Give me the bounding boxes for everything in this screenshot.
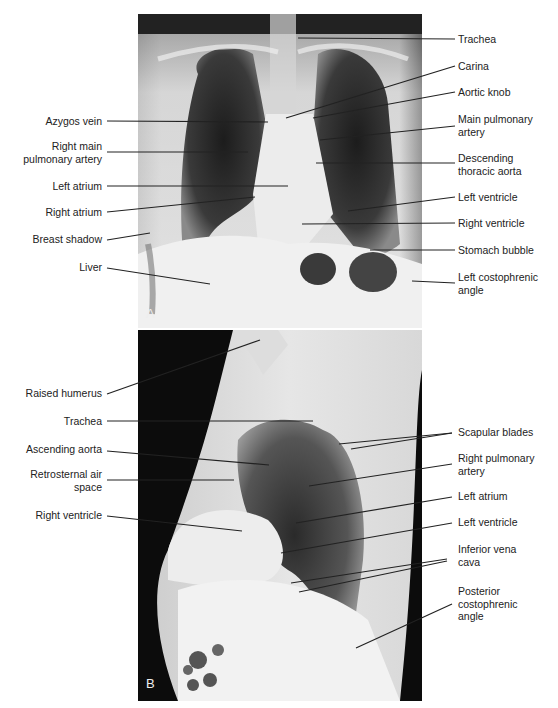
label-left-ventricle-a: Left ventricle	[458, 191, 518, 204]
label-right-ventricle-b: Right ventricle	[35, 509, 102, 522]
xray-panel-a-frontal: A	[138, 14, 422, 328]
panel-label-a: A	[146, 306, 155, 321]
label-right-main-pulmonary-artery: Right main pulmonary artery	[23, 140, 102, 165]
label-left-atrium-a: Left atrium	[52, 180, 102, 193]
label-descending-thoracic-aorta: Descending thoracic aorta	[458, 152, 522, 177]
label-ascending-aorta: Ascending aorta	[26, 443, 102, 456]
label-azygos-vein: Azygos vein	[45, 115, 102, 128]
label-right-pulmonary-artery: Right pulmonary artery	[458, 452, 534, 477]
label-aortic-knob: Aortic knob	[458, 86, 511, 99]
label-carina: Carina	[458, 60, 489, 73]
panel-label-b: B	[146, 676, 155, 691]
label-left-ventricle-b: Left ventricle	[458, 516, 518, 529]
label-right-atrium: Right atrium	[45, 206, 102, 219]
label-posterior-costophrenic-angle: Posterior costophrenic angle	[458, 585, 518, 623]
label-left-atrium-b: Left atrium	[458, 490, 508, 503]
label-left-costophrenic-angle: Left costophrenic angle	[458, 271, 538, 296]
label-scapular-blades: Scapular blades	[458, 426, 533, 439]
label-trachea-a: Trachea	[458, 33, 496, 46]
label-liver: Liver	[79, 261, 102, 274]
label-trachea-b: Trachea	[64, 415, 102, 428]
label-right-ventricle-a: Right ventricle	[458, 217, 525, 230]
lateral-xray-image	[138, 330, 422, 701]
label-raised-humerus: Raised humerus	[26, 387, 102, 400]
frontal-xray-image	[138, 14, 422, 328]
label-inferior-vena-cava: Inferior vena cava	[458, 543, 516, 568]
label-stomach-bubble: Stomach bubble	[458, 244, 534, 257]
label-breast-shadow: Breast shadow	[33, 233, 102, 246]
label-retrosternal-air-space: Retrosternal air space	[30, 468, 102, 493]
label-main-pulmonary-artery: Main pulmonary artery	[458, 113, 533, 138]
xray-panel-b-lateral: B	[138, 330, 422, 701]
